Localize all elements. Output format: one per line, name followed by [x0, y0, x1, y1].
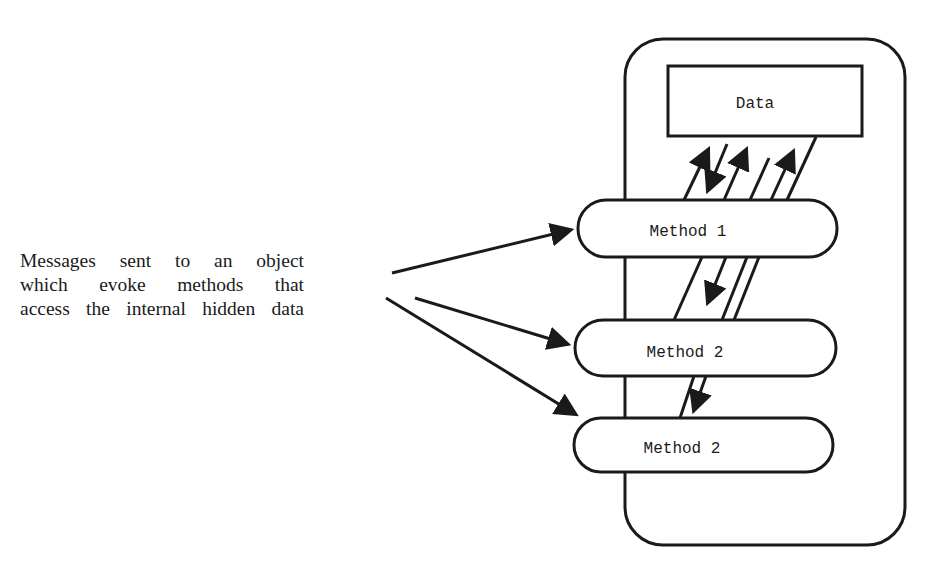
method-1-label: Method 1: [650, 223, 727, 241]
method-3-label: Method 2: [644, 440, 721, 458]
data-box-label: Data: [736, 95, 775, 113]
object-encapsulation-diagram: Data Method 1 Method 2: [0, 0, 942, 570]
data-box: Data: [668, 66, 862, 136]
method-1-box: Method 1: [578, 200, 837, 257]
message-arrow-method-2: [415, 298, 567, 344]
message-arrow-method-1: [392, 230, 570, 273]
message-arrows: [386, 230, 575, 414]
method-3-box: Method 2: [574, 418, 833, 472]
message-arrow-method-3: [386, 298, 575, 414]
method-2-label: Method 2: [647, 344, 724, 362]
method-2-box: Method 2: [575, 320, 836, 376]
